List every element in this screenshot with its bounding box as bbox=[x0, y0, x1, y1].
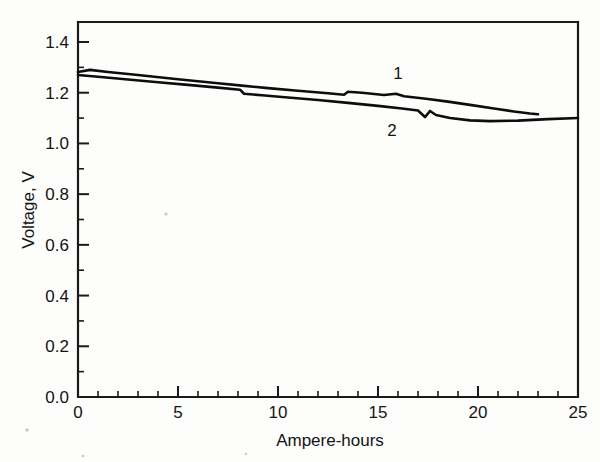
y-tick-label: 1.2 bbox=[45, 84, 69, 103]
curve-label-1: 1 bbox=[393, 64, 402, 83]
y-tick-label: 0.4 bbox=[45, 287, 69, 306]
y-tick-label: 0.2 bbox=[45, 337, 69, 356]
x-tick-label: 15 bbox=[369, 403, 388, 422]
x-tick-label: 20 bbox=[469, 403, 488, 422]
y-tick-label: 0.8 bbox=[45, 185, 69, 204]
x-tick-label: 0 bbox=[73, 403, 82, 422]
x-axis-title: Ampere-hours bbox=[276, 431, 384, 450]
y-axis-title: Voltage, V bbox=[19, 171, 38, 249]
figure-page: 0510152025 0.00.20.40.60.81.01.21.4 12 A… bbox=[0, 0, 600, 462]
y-tick-label: 0.6 bbox=[45, 236, 69, 255]
y-tick-label: 0.0 bbox=[45, 388, 69, 407]
x-tick-label: 10 bbox=[269, 403, 288, 422]
curve-label-2: 2 bbox=[387, 121, 396, 140]
x-tick-label: 5 bbox=[173, 403, 182, 422]
y-tick-label: 1.0 bbox=[45, 134, 69, 153]
battery-discharge-chart: 0510152025 0.00.20.40.60.81.01.21.4 12 A… bbox=[0, 0, 600, 462]
y-tick-label: 1.4 bbox=[45, 33, 69, 52]
x-tick-label: 25 bbox=[569, 403, 588, 422]
